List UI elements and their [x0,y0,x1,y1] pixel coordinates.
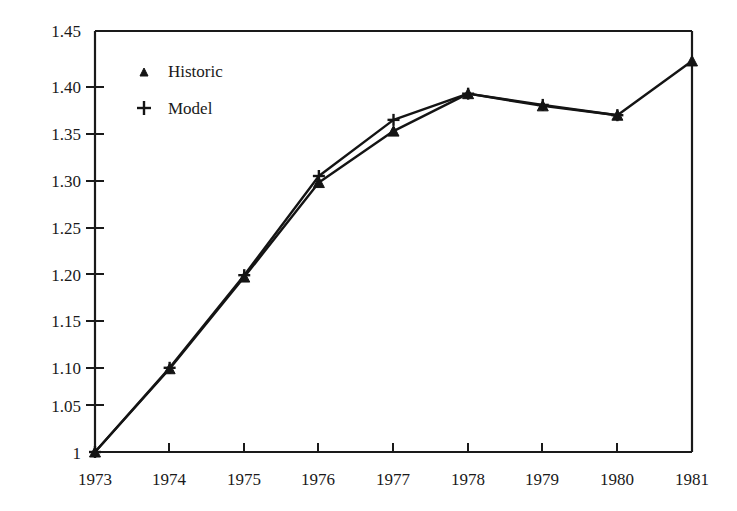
x-tick-label: 1978 [451,470,485,489]
series-line [95,94,617,452]
x-tick-label: 1974 [152,470,187,489]
x-axis-tick-labels: 1973 1974 1975 1976 1977 1978 1979 1980 … [78,470,709,489]
y-tick-label: 1 [73,444,82,463]
data-point-marker-triangle [687,55,698,65]
y-tick-label: 1.05 [51,397,81,416]
y-tick-label: 1.30 [51,172,81,191]
legend-label-historic: Historic [168,62,223,81]
y-tick-label: 1.25 [51,219,81,238]
y-tick-label: 1.15 [51,312,81,331]
y-tick-label: 1.10 [51,359,81,378]
x-tick-label: 1980 [600,470,634,489]
x-axis-ticks [169,443,617,452]
legend-label-model: Model [168,99,213,118]
x-tick-label: 1977 [376,470,411,489]
x-tick-label: 1976 [301,470,335,489]
line-chart: 1.45 1.40 1.35 1.30 1.25 1.20 1.15 1.10 … [0,0,737,511]
y-tick-label: 1.20 [51,266,81,285]
plot-frame [95,31,692,452]
y-tick-label: 1.35 [51,125,81,144]
y-tick-label: 1.40 [51,78,81,97]
chart-legend: Historic Model [137,62,223,118]
chart-canvas: 1.45 1.40 1.35 1.30 1.25 1.20 1.15 1.10 … [0,0,737,511]
plus-icon [137,101,151,115]
series-model [89,88,623,458]
x-tick-label: 1979 [525,470,559,489]
x-tick-label: 1981 [675,470,709,489]
x-tick-label: 1973 [78,470,112,489]
data-point-marker-triangle [388,126,399,137]
y-axis-tick-labels: 1.45 1.40 1.35 1.30 1.25 1.20 1.15 1.10 … [51,22,81,463]
y-tick-label: 1.45 [51,22,81,41]
triangle-icon [140,68,148,76]
x-tick-label: 1975 [227,470,261,489]
